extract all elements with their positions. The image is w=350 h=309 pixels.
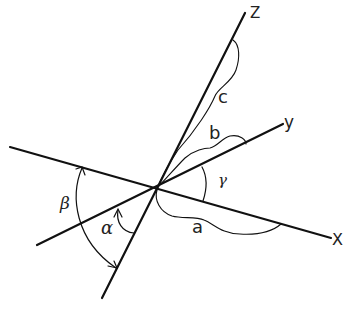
- c-length-label: c: [218, 88, 228, 106]
- a-length-label: a: [192, 218, 203, 236]
- gamma-arc: [202, 167, 206, 201]
- alpha-angle-label: α: [101, 219, 113, 237]
- z-axis-line: [102, 13, 245, 298]
- beta-angle-label: β: [60, 195, 70, 212]
- y-axis-label: y: [284, 114, 294, 131]
- z-axis-label: Z: [250, 6, 260, 21]
- beta-arrowhead-bottom: [108, 261, 117, 268]
- axes-diagram: Z y X c b a γ α β: [0, 0, 350, 309]
- gamma-angle-label: γ: [218, 173, 227, 188]
- diagram-lines: [0, 0, 350, 309]
- x-axis-label: X: [332, 232, 343, 248]
- b-length-label: b: [209, 124, 220, 142]
- a-brace: [156, 190, 281, 234]
